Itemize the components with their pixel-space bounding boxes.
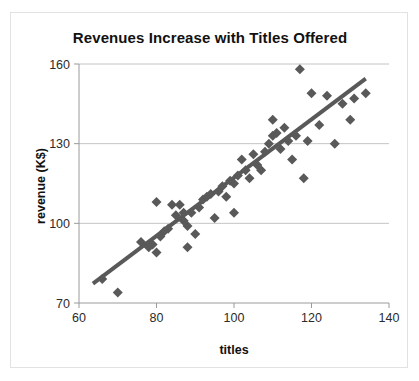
x-axis-tick-label: 120: [301, 311, 322, 325]
data-point-marker: [113, 287, 123, 297]
data-point-marker: [152, 197, 162, 207]
data-point-marker: [210, 213, 220, 223]
data-point-marker: [314, 120, 324, 130]
gridlines: [79, 64, 389, 223]
data-point-marker: [248, 149, 258, 159]
y-axis-tick-label: 100: [49, 217, 70, 231]
y-axis-tick-label: 70: [56, 297, 70, 311]
data-points: [97, 64, 371, 297]
data-point-marker: [322, 91, 332, 101]
x-axis-title: titles: [219, 343, 248, 357]
y-axis-tick-label: 130: [49, 137, 70, 151]
data-point-marker: [303, 136, 313, 146]
x-axis-tick-labels: 6080100120140: [72, 311, 399, 325]
data-point-marker: [361, 88, 371, 98]
data-point-marker: [307, 88, 317, 98]
data-point-marker: [295, 64, 305, 74]
data-point-marker: [229, 208, 239, 218]
chart-frame: Revenues Increase with Titles Offered 70…: [10, 12, 408, 368]
data-point-marker: [268, 115, 278, 125]
data-point-marker: [287, 155, 297, 165]
data-point-marker: [190, 229, 200, 239]
data-point-marker: [299, 173, 309, 183]
data-point-marker: [237, 155, 247, 165]
y-axis-title: revenue (K$): [34, 148, 48, 224]
y-axis-tick-label: 160: [49, 58, 70, 72]
data-point-marker: [349, 94, 359, 104]
data-point-marker: [221, 192, 231, 202]
data-point-marker: [279, 123, 289, 133]
data-point-marker: [330, 139, 340, 149]
x-axis-tick-label: 80: [150, 311, 164, 325]
x-axis-tick-label: 60: [72, 311, 86, 325]
y-axis-tick-labels: 70100130160: [49, 58, 70, 311]
data-point-marker: [183, 242, 193, 252]
data-point-marker: [345, 115, 355, 125]
x-axis-tick-label: 140: [379, 311, 400, 325]
scatter-plot: 70100130160 6080100120140 revenue (K$) t…: [1, 1, 419, 381]
x-axis-tick-label: 100: [224, 311, 245, 325]
